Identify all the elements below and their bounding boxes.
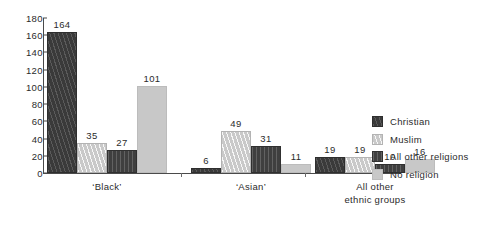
legend-item-muslim[interactable]: Muslim xyxy=(372,134,469,145)
legend-swatch-icon xyxy=(372,116,383,127)
x-axis-category-label: ‘Black’ xyxy=(47,180,167,193)
bar-value-label: 31 xyxy=(260,133,271,144)
bar-value-label: 101 xyxy=(143,73,160,84)
legend-item-all-other-religions[interactable]: All other religions xyxy=(372,151,469,162)
legend-swatch-icon xyxy=(372,169,383,180)
bar-column: 49 xyxy=(221,18,251,173)
legend-item-no-religion[interactable]: No religion xyxy=(372,169,469,180)
bar-chart: 020406080100120140160180 164352710164931… xyxy=(0,0,488,234)
legend-label: Muslim xyxy=(390,134,422,145)
legend-label: No religion xyxy=(390,169,439,180)
legend-swatch-icon xyxy=(372,151,383,162)
y-axis-tick-label: 20 xyxy=(0,150,49,161)
bar-column: 6 xyxy=(191,18,221,173)
bar-column: 19 xyxy=(315,18,345,173)
bar-value-label: 19 xyxy=(324,144,335,155)
bar-value-label: 49 xyxy=(230,118,241,129)
y-axis-tick-label: 60 xyxy=(0,116,49,127)
bar-column: 31 xyxy=(251,18,281,173)
x-axis-category-label: ‘Asian’ xyxy=(191,180,311,193)
y-axis-tick-label: 100 xyxy=(0,81,49,92)
legend: ChristianMuslimAll other religionsNo rel… xyxy=(372,116,469,180)
bar-group: 1643527101 xyxy=(47,18,167,173)
bar-column: 27 xyxy=(107,18,137,173)
bar-column: 35 xyxy=(77,18,107,173)
bar-column: 101 xyxy=(137,18,167,173)
bar-no-religion[interactable] xyxy=(137,86,167,173)
y-axis-tick-label: 80 xyxy=(0,99,49,110)
y-axis-tick-label: 180 xyxy=(0,13,49,24)
bar-value-label: 35 xyxy=(86,130,97,141)
legend-label: Christian xyxy=(390,116,430,127)
bar-value-label: 19 xyxy=(354,144,365,155)
plot-area: 1643527101649311119191016 xyxy=(43,18,400,173)
bar-value-label: 27 xyxy=(116,137,127,148)
x-axis-category-label: All other ethnic groups xyxy=(315,180,435,206)
x-axis-separator-tick xyxy=(181,173,182,177)
legend-swatch-icon xyxy=(372,134,383,145)
bar-muslim[interactable] xyxy=(221,131,251,173)
bar-column: 11 xyxy=(281,18,311,173)
bar-muslim[interactable] xyxy=(345,157,375,173)
bar-value-label: 164 xyxy=(53,19,70,30)
bar-no-religion[interactable] xyxy=(281,164,311,173)
x-axis-separator-tick xyxy=(305,173,306,177)
bar-value-label: 6 xyxy=(203,155,209,166)
bar-christian[interactable] xyxy=(47,32,77,173)
x-axis-line xyxy=(43,173,401,174)
y-axis-tick-label: 140 xyxy=(0,47,49,58)
bar-all-other-religions[interactable] xyxy=(107,150,137,173)
y-axis-tick-label: 40 xyxy=(0,133,49,144)
bar-all-other-religions[interactable] xyxy=(251,146,281,173)
bar-christian[interactable] xyxy=(315,157,345,173)
bar-column: 19 xyxy=(345,18,375,173)
y-axis-tick-label: 0 xyxy=(0,168,49,179)
y-axis-tick-label: 160 xyxy=(0,30,49,41)
bar-christian[interactable] xyxy=(191,168,221,173)
y-axis-tick-label: 120 xyxy=(0,64,49,75)
bar-group: 6493111 xyxy=(191,18,311,173)
bar-column: 164 xyxy=(47,18,77,173)
bar-value-label: 11 xyxy=(291,151,302,162)
legend-label: All other religions xyxy=(390,151,469,162)
legend-item-christian[interactable]: Christian xyxy=(372,116,469,127)
bar-muslim[interactable] xyxy=(77,143,107,173)
